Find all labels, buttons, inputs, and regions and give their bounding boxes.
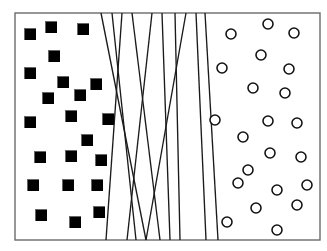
data-point-circle <box>243 165 253 175</box>
data-point-circle <box>263 19 273 29</box>
scatter-plot-canvas <box>0 0 327 251</box>
data-point-circle <box>296 152 306 162</box>
data-point-square <box>78 24 89 35</box>
data-point-square <box>92 180 103 191</box>
data-point-circle <box>280 88 290 98</box>
data-point-circle <box>284 64 294 74</box>
data-point-circle <box>292 118 302 128</box>
data-point-square <box>66 151 77 162</box>
data-point-circle <box>272 225 282 235</box>
data-point-square <box>35 152 46 163</box>
data-point-square <box>25 117 36 128</box>
data-point-square <box>25 29 36 40</box>
data-point-square <box>63 180 74 191</box>
data-point-circle <box>248 83 258 93</box>
data-point-square <box>91 79 102 90</box>
data-point-square <box>103 114 114 125</box>
data-point-circle <box>233 178 243 188</box>
data-point-circle <box>265 148 275 158</box>
data-point-circle <box>210 115 220 125</box>
data-point-square <box>82 135 93 146</box>
data-point-square <box>66 111 77 122</box>
data-point-circle <box>292 200 302 210</box>
data-point-circle <box>217 63 227 73</box>
data-point-square <box>70 217 81 228</box>
data-point-square <box>96 155 107 166</box>
data-point-circle <box>289 28 299 38</box>
data-point-square <box>94 207 105 218</box>
data-point-circle <box>251 203 261 213</box>
figure-container: Linear separators between two classes <box>0 0 327 251</box>
data-point-circle <box>226 29 236 39</box>
data-point-circle <box>256 50 266 60</box>
data-point-circle <box>222 217 232 227</box>
data-point-square <box>75 90 86 101</box>
plot-frame-border <box>15 13 320 240</box>
data-point-square <box>28 180 39 191</box>
data-point-square <box>46 22 57 33</box>
data-point-circle <box>263 116 273 126</box>
data-point-square <box>25 68 36 79</box>
data-point-circle <box>302 180 312 190</box>
data-point-circle <box>238 132 248 142</box>
data-point-square <box>43 93 54 104</box>
data-point-square <box>36 210 47 221</box>
data-point-circle <box>272 185 282 195</box>
data-point-square <box>58 77 69 88</box>
data-point-square <box>49 51 60 62</box>
